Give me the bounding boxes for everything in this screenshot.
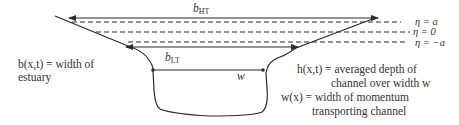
h-definition-line1: h(x,t) = averaged depth of <box>297 63 417 76</box>
w-left-dot <box>151 68 155 72</box>
b-ht-label: bHT <box>193 2 209 18</box>
w-definition-line2: transporting channel <box>312 105 406 118</box>
b-definition-line1: b(x,t) = width of <box>18 58 94 71</box>
w-label: w <box>237 70 245 83</box>
w-right-dot <box>261 68 265 72</box>
b-definition-line2: estuary <box>18 71 51 84</box>
w-definition-line1: w(x) = width of momentum <box>281 91 409 104</box>
h-definition-line2: channel over width w <box>331 77 430 90</box>
b-lt-label: bLT <box>165 51 180 67</box>
eta-neg-a-label: η = −a <box>415 36 445 49</box>
